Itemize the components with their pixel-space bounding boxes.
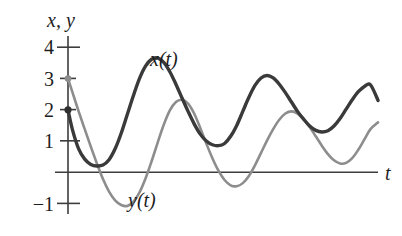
start-marker-y [65, 75, 72, 82]
tick-label-1: 1 [44, 130, 54, 152]
tick-label-3: 3 [44, 68, 54, 90]
tick-label-4: 4 [44, 36, 54, 58]
y-axis-title: x, y [46, 9, 75, 32]
tick-label-minus-1: −1 [33, 193, 54, 215]
t-axis-title: t [385, 162, 391, 184]
tick-label-2: 2 [44, 99, 54, 121]
start-marker-x [64, 106, 71, 113]
plot-canvas: 4 3 2 1 −1 x, y t x(t) y(t) [0, 0, 402, 236]
figure-root: 4 3 2 1 −1 x, y t x(t) y(t) [0, 0, 402, 236]
curve-label-y: y(t) [126, 189, 156, 212]
curve-label-x: x(t) [149, 48, 178, 71]
